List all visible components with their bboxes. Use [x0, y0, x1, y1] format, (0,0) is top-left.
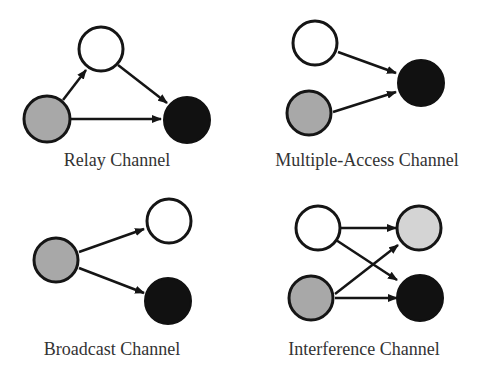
- rx1-node: [397, 206, 441, 250]
- mac-label: Multiple-Access Channel: [275, 150, 458, 171]
- tx1-node: [296, 206, 340, 250]
- broadcast-diagram: [34, 199, 191, 324]
- receiver2-node: [145, 278, 191, 324]
- user1-node: [293, 21, 337, 65]
- edge-tx1-to-rx2: [336, 240, 397, 280]
- mac-diagram: [287, 21, 444, 135]
- relay-channel-label: Relay Channel: [64, 150, 170, 171]
- broadcast-channel-label: Broadcast Channel: [44, 339, 180, 360]
- edge-tx-to-rx1: [79, 229, 144, 252]
- edge-tx2-to-rx1: [335, 245, 398, 294]
- interference-diagram: [289, 206, 443, 321]
- interference-channel-label: Interference Channel: [288, 339, 439, 360]
- transmitter-node: [34, 238, 78, 282]
- receiver-node: [398, 60, 444, 106]
- channel-diagrams: [0, 0, 491, 374]
- edge-source-to-relay: [63, 70, 86, 100]
- edge-user1-to-receiver: [338, 52, 396, 73]
- tx2-node: [289, 276, 333, 320]
- relay-node: [79, 27, 123, 71]
- edge-relay-to-destination: [118, 65, 167, 103]
- source-node: [24, 96, 70, 142]
- rx2-node: [397, 275, 443, 321]
- edge-user2-to-receiver: [333, 92, 396, 112]
- user2-node: [287, 91, 331, 135]
- relay-channel-diagram: [24, 27, 210, 143]
- destination-node: [164, 97, 210, 143]
- receiver1-node: [147, 199, 191, 243]
- edge-tx-to-rx2: [79, 268, 144, 293]
